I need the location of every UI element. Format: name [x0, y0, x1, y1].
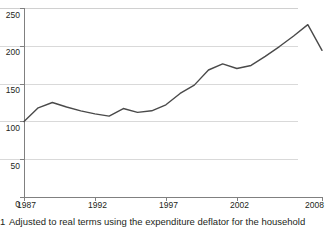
chart-screenshot: 250 200 150 100 50 0 1987 1992 1997 2002… [0, 0, 328, 231]
footnote-marker: 1 [0, 216, 9, 227]
footnote-text: Adjusted to real terms using the expendi… [9, 216, 305, 227]
series-line [24, 25, 322, 122]
line-chart: 250 200 150 100 50 0 1987 1992 1997 2002… [0, 0, 328, 212]
series-svg [0, 0, 328, 212]
footnote: 1Adjusted to real terms using the expend… [0, 216, 328, 227]
